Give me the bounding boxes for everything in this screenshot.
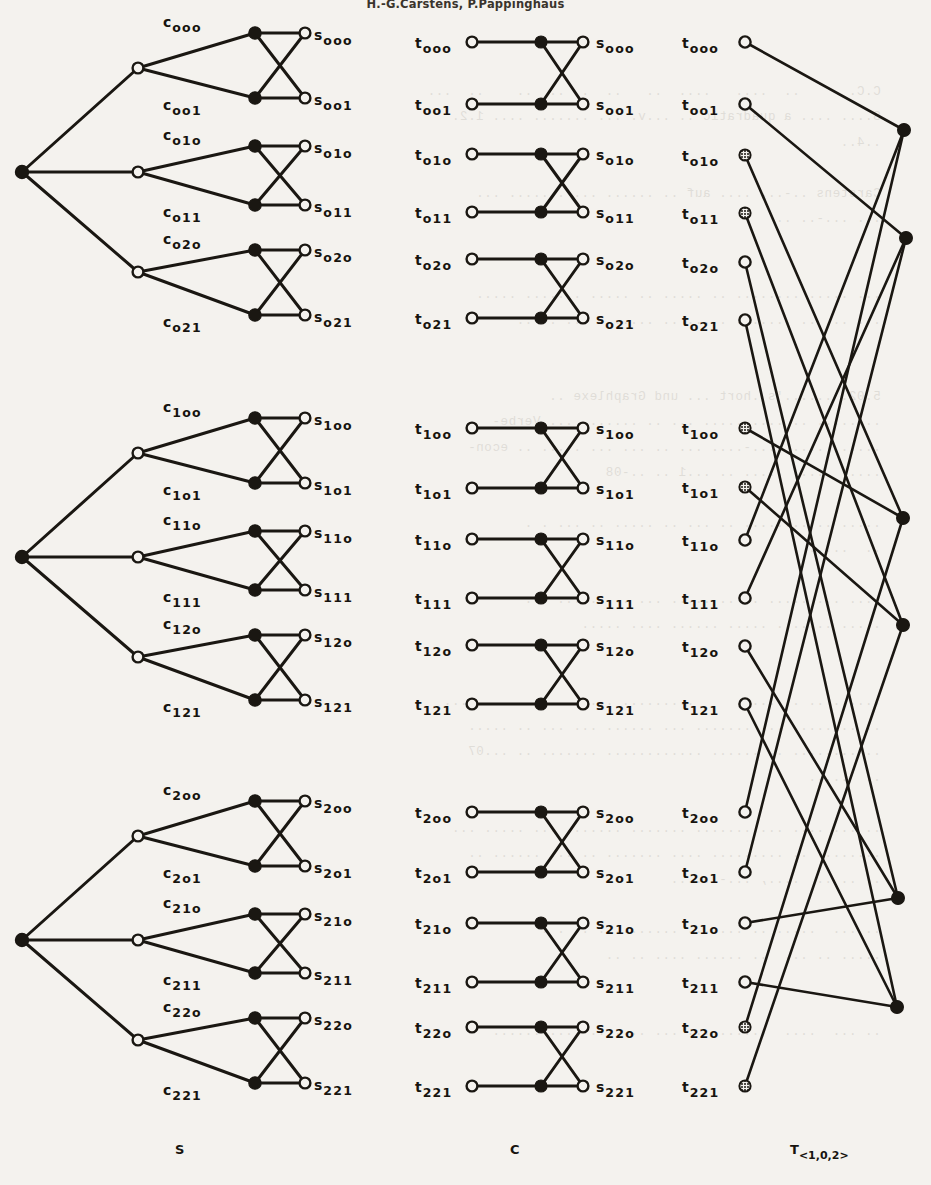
c-mid-node xyxy=(535,806,547,818)
c-t-node xyxy=(467,207,478,218)
c-label-t-oo1: too1 xyxy=(415,95,451,114)
c-s-node xyxy=(578,977,589,988)
c-t-node xyxy=(467,640,478,651)
s-label-s-o21: so21 xyxy=(314,307,352,326)
c-mid-node xyxy=(535,422,547,434)
s-edge-mid-c xyxy=(138,418,255,453)
c-label-t-ooo: tooo xyxy=(415,33,451,52)
s-label-c-ooo: cooo xyxy=(163,12,201,31)
s-c-node xyxy=(249,629,261,641)
c-s-node xyxy=(578,918,589,929)
c-s-node xyxy=(578,699,589,710)
c-mid-node xyxy=(535,36,547,48)
c-label-s-1o1: s1o1 xyxy=(596,479,634,498)
t-node-12o xyxy=(739,640,750,651)
c-s-node xyxy=(578,423,589,434)
c-t-node xyxy=(467,37,478,48)
c-label-s-221: s221 xyxy=(596,1077,634,1096)
s-label-c-1o1: c1o1 xyxy=(163,480,201,499)
t-node-o2o xyxy=(739,256,750,267)
s-s-node xyxy=(300,310,311,321)
s-s-node xyxy=(300,968,311,979)
c-mid-node xyxy=(535,98,547,110)
c-t-node xyxy=(467,918,478,929)
s-s-node xyxy=(300,413,311,424)
s-label-s-1oo: s1oo xyxy=(314,410,352,429)
s-edge-mid-c xyxy=(138,172,255,205)
s-edge-mid-c xyxy=(138,453,255,483)
s-s-node xyxy=(300,796,311,807)
c-t-node xyxy=(467,1022,478,1033)
c-label-s-111: s111 xyxy=(596,589,634,608)
t-edge xyxy=(745,238,906,598)
c-mid-node xyxy=(535,1021,547,1033)
s-label-s-21o: s21o xyxy=(314,906,352,925)
s-s-node xyxy=(300,245,311,256)
t-solid-node-0 xyxy=(898,124,911,137)
s-edge-mid-c xyxy=(138,836,255,866)
c-mid-node xyxy=(535,866,547,878)
caption-S: S xyxy=(175,1142,184,1157)
s-edge-root-mid xyxy=(22,940,138,1040)
s-label-s-121: s121 xyxy=(314,692,352,711)
c-s-node xyxy=(578,1022,589,1033)
s-label-s-oo1: soo1 xyxy=(314,90,352,109)
s-root-node xyxy=(15,550,28,563)
c-label-s-211: s211 xyxy=(596,973,634,992)
s-label-c-2o1: c2o1 xyxy=(163,863,201,882)
t-label-221: t221 xyxy=(682,1077,718,1096)
c-s-node xyxy=(578,254,589,265)
s-c-node xyxy=(249,860,261,872)
s-edge-mid-c xyxy=(138,146,255,172)
c-mid-node xyxy=(535,1080,547,1092)
s-edge-mid-c xyxy=(138,635,255,657)
s-edge-root-mid xyxy=(22,557,138,657)
s-label-s-12o: s12o xyxy=(314,627,352,646)
s-edge-root-mid xyxy=(22,836,138,940)
c-label-s-o1o: so1o xyxy=(596,145,634,164)
t-node-1o1 xyxy=(739,481,750,492)
c-mid-node xyxy=(535,698,547,710)
s-edge-root-mid xyxy=(22,453,138,557)
t-label-oo1: too1 xyxy=(682,95,718,114)
c-t-node xyxy=(467,99,478,110)
s-label-c-111: c111 xyxy=(163,587,201,606)
t-edge xyxy=(745,625,903,1086)
t-node-121 xyxy=(739,698,750,709)
t-label-2o1: t2o1 xyxy=(682,863,718,882)
s-c-node xyxy=(249,477,261,489)
s-c-node xyxy=(249,92,261,104)
c-t-node xyxy=(467,483,478,494)
s-c-node xyxy=(249,309,261,321)
s-c-node xyxy=(249,244,261,256)
c-label-s-1oo: s1oo xyxy=(596,419,634,438)
s-label-c-21o: c21o xyxy=(163,893,201,912)
s-s-node xyxy=(300,93,311,104)
s-label-s-1o1: s1o1 xyxy=(314,475,352,494)
t-edge xyxy=(745,320,897,1007)
c-s-node xyxy=(578,1081,589,1092)
c-label-t-o2o: to2o xyxy=(415,250,451,269)
s-s-node xyxy=(300,630,311,641)
s-edge-mid-c xyxy=(138,250,255,272)
c-mid-node xyxy=(535,253,547,265)
s-mid-node xyxy=(133,448,144,459)
s-c-node xyxy=(249,412,261,424)
s-label-s-2o1: s2o1 xyxy=(314,858,352,877)
t-label-o11: to11 xyxy=(682,204,718,223)
c-label-t-11o: t11o xyxy=(415,530,451,549)
s-edge-mid-c xyxy=(138,801,255,836)
t-label-o21: to21 xyxy=(682,311,718,330)
s-mid-node xyxy=(133,1035,144,1046)
s-label-s-o11: so11 xyxy=(314,197,352,216)
s-s-node xyxy=(300,526,311,537)
c-t-node xyxy=(467,423,478,434)
t-solid-node-5 xyxy=(891,1001,904,1014)
c-label-s-o11: so11 xyxy=(596,203,634,222)
t-solid-node-4 xyxy=(892,892,905,905)
s-c-node xyxy=(249,795,261,807)
t-node-21o xyxy=(739,917,750,928)
t-edge xyxy=(745,982,897,1007)
c-label-s-o21: so21 xyxy=(596,309,634,328)
t-node-o1o xyxy=(739,149,750,160)
